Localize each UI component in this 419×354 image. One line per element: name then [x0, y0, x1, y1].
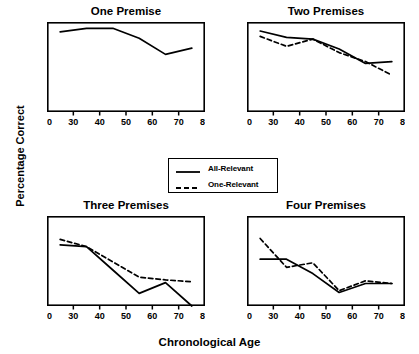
panel-title: One Premise	[47, 5, 205, 17]
x-tick-label: 40	[95, 311, 105, 321]
x-tick-label: 20	[247, 117, 252, 127]
plot-area: 506070809010020304050607080	[247, 216, 405, 330]
legend-dashed-line-icon	[175, 179, 201, 189]
x-tick-label: 60	[347, 311, 357, 321]
panel-four-premises: Four Premises 50607080901002030405060708…	[247, 216, 405, 330]
panel-title: Two Premises	[247, 5, 405, 17]
panel-two-premises: Two Premises 506070809010020304050607080	[247, 22, 405, 136]
plot-area: 506070809010020304050607080	[47, 216, 205, 330]
x-tick-label: 30	[268, 311, 278, 321]
plot-area: 506070809010020304050607080	[47, 22, 205, 136]
series-line	[260, 36, 392, 75]
legend-label: All-Relevant	[208, 164, 253, 173]
x-tick-label: 70	[174, 117, 184, 127]
figure-root: Percentage Correct One Premise 506070809…	[0, 0, 419, 354]
legend-label: One-Relevant	[208, 180, 258, 189]
x-tick-label: 20	[47, 311, 52, 321]
x-tick-label: 70	[174, 311, 184, 321]
x-tick-label: 20	[247, 311, 252, 321]
panel-one-premise: One Premise 506070809010020304050607080	[47, 22, 205, 136]
x-tick-label: 30	[68, 311, 78, 321]
legend-item-one-relevant: One-Relevant	[175, 176, 258, 192]
series-line	[60, 245, 192, 306]
y-axis-label: Percentage Correct	[14, 76, 26, 236]
x-tick-label: 60	[347, 117, 357, 127]
x-tick-label: 40	[295, 117, 305, 127]
x-tick-label: 50	[121, 311, 131, 321]
x-tick-label: 30	[268, 117, 278, 127]
legend-item-all-relevant: All-Relevant	[175, 160, 253, 176]
series-line	[60, 28, 192, 54]
plot-area: 506070809010020304050607080	[247, 22, 405, 136]
x-tick-label: 50	[321, 311, 331, 321]
x-tick-label: 60	[147, 117, 157, 127]
x-tick-label: 30	[68, 117, 78, 127]
panel-title: Four Premises	[247, 199, 405, 211]
legend: All-Relevant One-Relevant	[168, 158, 278, 193]
legend-solid-line-icon	[175, 163, 201, 173]
x-tick-label: 80	[400, 117, 405, 127]
x-tick-label: 60	[147, 311, 157, 321]
x-tick-label: 80	[200, 117, 205, 127]
x-tick-label: 80	[400, 311, 405, 321]
x-axis-label: Chronological Age	[0, 336, 419, 348]
x-tick-label: 80	[200, 311, 205, 321]
panel-three-premises: Three Premises 5060708090100203040506070…	[47, 216, 205, 330]
x-tick-label: 50	[121, 117, 131, 127]
x-tick-label: 40	[95, 117, 105, 127]
x-tick-label: 20	[47, 117, 52, 127]
x-tick-label: 40	[295, 311, 305, 321]
x-tick-label: 70	[374, 117, 384, 127]
panel-title: Three Premises	[47, 199, 205, 211]
x-tick-label: 50	[321, 117, 331, 127]
series-line	[260, 31, 392, 63]
x-tick-label: 70	[374, 311, 384, 321]
